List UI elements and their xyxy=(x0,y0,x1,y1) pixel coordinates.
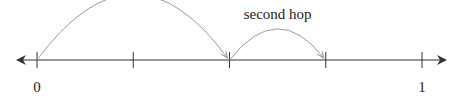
second-hop-arc xyxy=(230,29,324,60)
tick-label: 1 xyxy=(418,79,426,95)
first-hop-arc xyxy=(37,0,228,60)
second-hop-label: second hop xyxy=(244,6,312,22)
tick-label: 0 xyxy=(33,79,41,95)
number-line-diagram: first hopsecond hop 01 xyxy=(0,0,458,103)
